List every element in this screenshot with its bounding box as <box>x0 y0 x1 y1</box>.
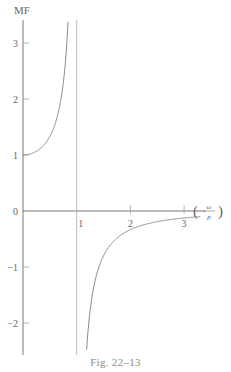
curve-above-resonance <box>87 217 201 350</box>
plot-area: 3210−1−2123 MF ( ω p ) <box>0 0 231 372</box>
curves <box>23 22 200 350</box>
x-axis-label: ( ω p ) <box>193 203 223 221</box>
y-tick-label: −2 <box>7 318 18 329</box>
chart: 3210−1−2123 MF ( ω p ) Fig. 22–13 <box>0 0 231 372</box>
curve-below-resonance <box>23 22 68 155</box>
x-label-denominator: p <box>206 213 211 221</box>
x-label-numerator: ω <box>207 203 212 211</box>
x-tick-label: 2 <box>128 218 133 229</box>
x-tick-label: 1 <box>78 218 83 229</box>
x-tick-label: 3 <box>182 218 187 229</box>
figure-caption: Fig. 22–13 <box>0 356 231 368</box>
y-axis-label: MF <box>14 4 30 16</box>
y-tick-label: −1 <box>7 262 18 273</box>
x-label-open-paren: ( <box>193 203 198 220</box>
ticks: 3210−1−2123 <box>7 38 186 329</box>
axes <box>23 20 206 355</box>
y-tick-label: 1 <box>13 150 18 161</box>
x-label-close-paren: ) <box>218 203 223 220</box>
y-tick-label: 0 <box>13 206 18 217</box>
y-tick-label: 2 <box>13 94 18 105</box>
y-tick-label: 3 <box>13 38 18 49</box>
